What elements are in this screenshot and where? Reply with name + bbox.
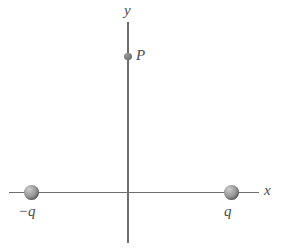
- positive-charge-label: q: [224, 204, 232, 219]
- point-p-marker-icon: [124, 53, 132, 61]
- x-axis-label: x: [264, 183, 271, 198]
- point-p-label: P: [136, 48, 145, 63]
- positive-charge-sphere-icon: [224, 185, 239, 200]
- y-axis-label: y: [124, 3, 131, 18]
- electric-dipole-figure: x y −q q P: [0, 0, 291, 249]
- negative-charge-sphere-icon: [24, 185, 39, 200]
- x-axis-line: [9, 192, 259, 194]
- negative-charge-label: −q: [18, 204, 36, 219]
